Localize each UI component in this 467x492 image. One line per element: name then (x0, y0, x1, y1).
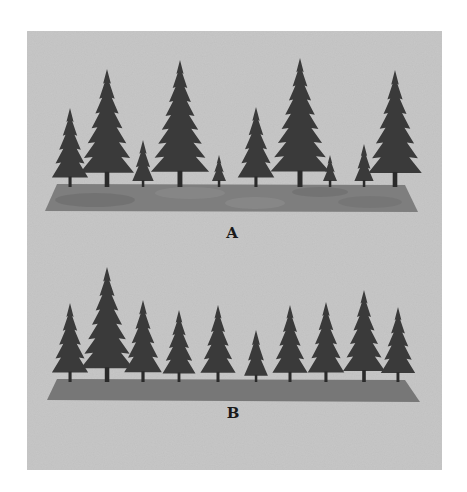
panel-a-ground (45, 184, 418, 212)
panel-b-label: B (213, 404, 253, 422)
panel-a-label: A (212, 224, 252, 242)
panel-b-ground (47, 379, 420, 402)
